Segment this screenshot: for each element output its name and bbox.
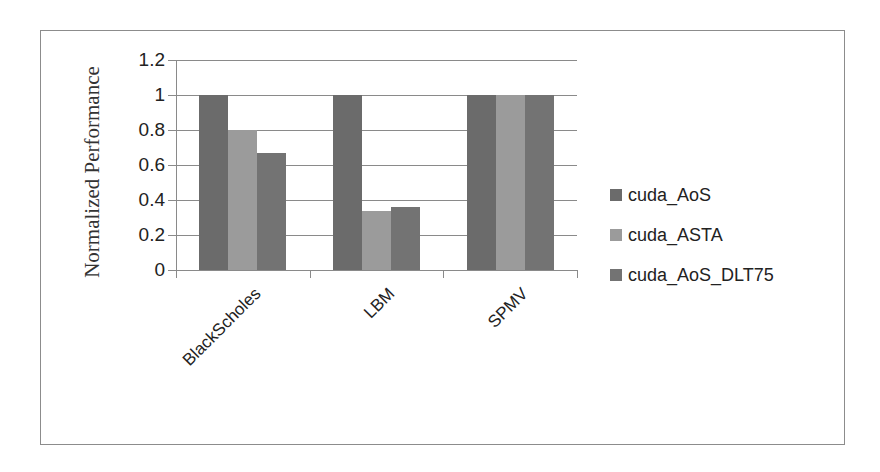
y-tick-label: 0.8 (139, 119, 165, 141)
bar-lbm-cuda-asta (362, 211, 391, 271)
y-tick-label: 0.2 (139, 224, 165, 246)
y-tick-label: 0 (154, 259, 165, 281)
bar-blackscholes-cuda-aos (199, 95, 228, 270)
bar-blackscholes-cuda-aos-dlt75 (257, 153, 286, 270)
y-tick-label: 1 (154, 84, 165, 106)
x-tick-mark (443, 270, 444, 278)
y-tick-label: 1.2 (139, 49, 165, 71)
legend-label: cuda_ASTA (628, 225, 723, 246)
x-tick-mark (310, 270, 311, 278)
legend-swatch-icon (610, 189, 622, 201)
bar-spmv-cuda-aos (467, 95, 496, 270)
y-tick-label: 0.6 (139, 154, 165, 176)
legend-item: cuda_AoS (610, 175, 774, 215)
legend-swatch-icon (610, 269, 622, 281)
legend: cuda_AoScuda_ASTAcuda_AoS_DLT75 (610, 175, 774, 295)
legend-swatch-icon (610, 229, 622, 241)
legend-item: cuda_ASTA (610, 215, 774, 255)
bar-lbm-cuda-aos-dlt75 (391, 207, 420, 270)
bar-blackscholes-cuda-asta (228, 130, 257, 270)
x-tick-mark (577, 270, 578, 278)
bar-spmv-cuda-aos-dlt75 (525, 95, 554, 270)
gridline (168, 60, 577, 61)
y-axis-label: Normalized Performance (80, 66, 105, 278)
legend-label: cuda_AoS_DLT75 (628, 265, 774, 286)
legend-label: cuda_AoS (628, 185, 711, 206)
bar-spmv-cuda-asta (496, 95, 525, 270)
gridline (168, 270, 577, 271)
x-tick-mark (176, 270, 177, 278)
legend-item: cuda_AoS_DLT75 (610, 255, 774, 295)
plot-area: 00.20.40.60.811.2BlackScholesLBMSPMV (176, 60, 577, 270)
bar-lbm-cuda-aos (333, 95, 362, 270)
y-tick-label: 0.4 (139, 189, 165, 211)
